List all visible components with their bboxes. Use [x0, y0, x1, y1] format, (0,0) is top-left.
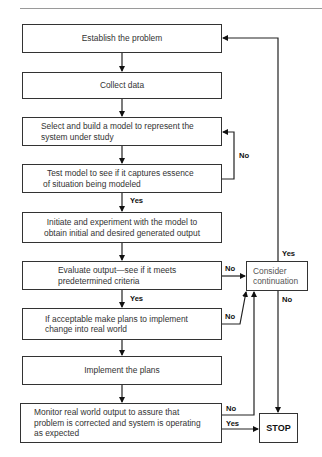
step-monitor-output: Monitor real world output to assure that… — [20, 403, 222, 443]
step-text: Initiate and experiment with the model t… — [44, 217, 200, 238]
step-text-line: Evaluate output—see if it meets — [58, 265, 176, 276]
label-consider-no: No — [282, 295, 292, 304]
step-initiate-experiment: Initiate and experiment with the model t… — [22, 212, 222, 243]
label-monitor-yes: Yes — [226, 419, 239, 428]
step-stop: STOP — [259, 413, 298, 443]
step-evaluate-output: Evaluate output—see if it meets predeter… — [22, 261, 222, 290]
stop-text: STOP — [266, 423, 290, 434]
label-test-no: No — [239, 151, 249, 160]
step-text-line: as expected — [34, 428, 201, 439]
step-consider-continuation: Consider continuation — [246, 261, 308, 291]
label-evaluate-no: No — [225, 264, 235, 273]
label-evaluate-yes: Yes — [130, 294, 143, 303]
step-test-model: Test model to see if it captures essence… — [22, 164, 222, 193]
step-text: Monitor real world output to assure that… — [34, 407, 201, 439]
step-text-line: Initiate and experiment with the model t… — [44, 217, 200, 228]
label-acceptable-no: No — [225, 312, 235, 321]
step-collect-data: Collect data — [22, 72, 222, 99]
step-text-line: Select and build a model to represent th… — [41, 121, 194, 132]
step-text-line: predetermined criteria — [58, 276, 176, 287]
step-text: Select and build a model to represent th… — [41, 121, 194, 142]
step-text-line: obtain initial and desired generated out… — [44, 228, 200, 239]
step-implement-plans: Implement the plans — [22, 356, 222, 385]
step-text-line: system under study — [41, 132, 194, 143]
label-monitor-no: No — [226, 404, 236, 413]
step-text-line: problem is corrected and system is opera… — [34, 418, 201, 429]
step-text-line: Monitor real world output to assure that — [34, 407, 201, 418]
label-consider-yes: Yes — [282, 249, 295, 258]
step-text: Evaluate output—see if it meets predeter… — [58, 265, 176, 286]
step-make-plans: If acceptable make plans to implement ch… — [22, 308, 222, 340]
step-text-line: Test model to see if it captures essence — [43, 168, 194, 179]
step-text-line: If acceptable make plans to implement — [45, 314, 188, 325]
label-test-yes: Yes — [130, 196, 143, 205]
step-text: Implement the plans — [84, 365, 159, 376]
step-text: Consider continuation — [253, 266, 298, 287]
step-text-line: change into real world — [45, 324, 188, 335]
step-text: Test model to see if it captures essence… — [43, 168, 194, 189]
step-select-model: Select and build a model to represent th… — [22, 117, 222, 146]
step-text-line: of situation being modeled — [43, 179, 194, 190]
step-establish-problem: Establish the problem — [22, 24, 222, 53]
step-text: Collect data — [100, 80, 144, 91]
step-text-line: continuation — [253, 276, 298, 287]
step-text-line: Consider — [253, 266, 298, 277]
step-text: If acceptable make plans to implement ch… — [45, 314, 188, 335]
step-text: Establish the problem — [82, 33, 163, 44]
